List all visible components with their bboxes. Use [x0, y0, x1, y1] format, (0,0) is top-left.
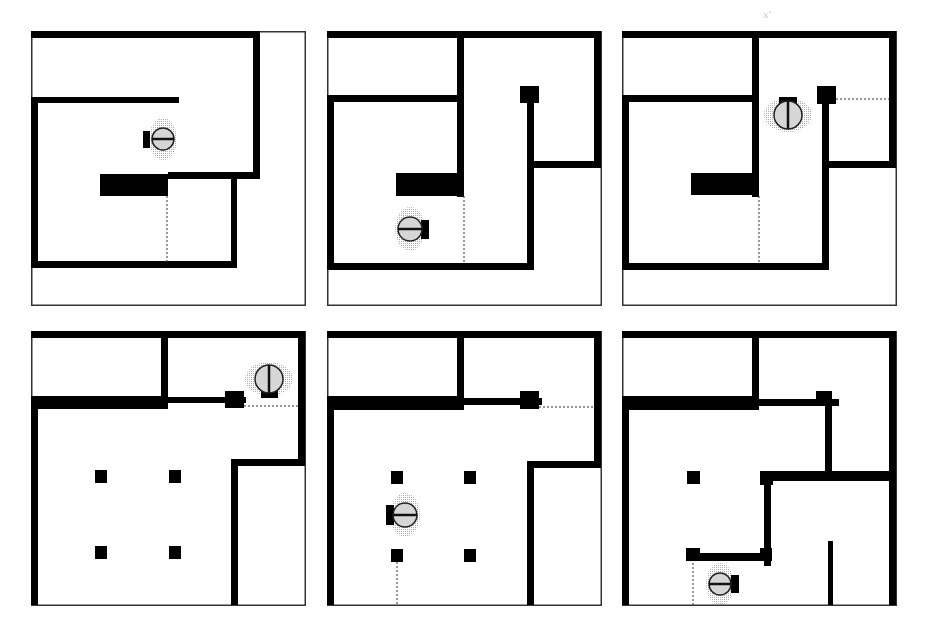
wall — [752, 331, 759, 405]
wall — [828, 541, 833, 605]
obstacle — [687, 471, 700, 484]
wall — [889, 31, 896, 167]
floor-plan-map — [31, 31, 306, 306]
obstacle — [396, 173, 464, 196]
obstacle — [225, 391, 244, 408]
wall — [457, 31, 464, 197]
wall — [298, 331, 305, 464]
wall — [622, 396, 629, 605]
wall — [527, 461, 601, 468]
wall — [327, 396, 334, 605]
panel-5 — [327, 331, 602, 606]
obstacle — [760, 471, 773, 485]
obstacle — [686, 548, 700, 561]
wall — [168, 172, 260, 179]
robot-sensor — [731, 575, 739, 593]
wall — [622, 95, 629, 270]
obstacle — [817, 86, 836, 104]
wall — [327, 263, 533, 270]
wall — [327, 95, 334, 270]
panel-2 — [327, 31, 602, 306]
obstacle — [95, 470, 107, 483]
wall — [457, 331, 464, 405]
floor-plan-map — [327, 31, 602, 306]
wall — [822, 103, 829, 270]
wall — [31, 31, 260, 38]
obstacle — [95, 546, 107, 559]
wall — [327, 396, 464, 410]
map-border — [328, 332, 602, 606]
wall — [31, 396, 168, 409]
floor-plan-map — [622, 331, 897, 606]
obstacle — [169, 546, 181, 559]
wall — [622, 263, 828, 270]
floor-plan-map — [31, 331, 306, 606]
wall — [231, 459, 238, 605]
wall — [327, 95, 463, 102]
obstacle — [169, 470, 181, 483]
panel-6 — [622, 331, 897, 606]
wall — [253, 31, 260, 179]
wall — [161, 331, 168, 403]
wall — [594, 31, 601, 167]
wall — [527, 103, 534, 270]
obstacle — [464, 549, 476, 562]
wall — [622, 396, 759, 410]
wall — [231, 459, 305, 466]
floor-plan-map — [622, 31, 897, 306]
wall — [622, 95, 758, 102]
obstacle — [691, 173, 759, 195]
obstacle — [816, 391, 832, 406]
wall — [31, 261, 237, 268]
obstacle — [760, 548, 772, 561]
panel-1 — [31, 31, 306, 306]
wall — [534, 161, 601, 168]
wall — [766, 471, 896, 481]
wall — [594, 331, 601, 467]
map-border — [623, 332, 897, 606]
wall — [527, 461, 534, 605]
robot-sensor — [143, 131, 150, 148]
obstacle — [391, 549, 403, 562]
obstacle — [520, 86, 539, 103]
stray-mark: x' — [763, 9, 771, 20]
obstacle — [100, 174, 168, 196]
obstacle — [520, 391, 539, 409]
wall — [829, 161, 896, 168]
floor-plan-map — [327, 331, 602, 606]
obstacle — [464, 471, 476, 484]
wall — [231, 172, 237, 268]
wall — [752, 31, 759, 197]
panel-3 — [622, 31, 897, 306]
panel-4 — [31, 331, 306, 606]
wall — [889, 331, 896, 605]
obstacle — [391, 471, 403, 484]
wall — [31, 97, 179, 103]
wall — [31, 396, 38, 605]
wall — [31, 97, 38, 268]
